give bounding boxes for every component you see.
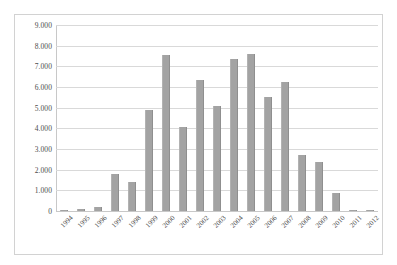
gridline (56, 25, 378, 26)
x-axis-tick-label: 2007 (280, 214, 296, 230)
bar (298, 155, 306, 211)
x-axis-tick-label: 1997 (110, 214, 126, 230)
y-axis-tick-label: 9.000 (35, 21, 52, 30)
bar (332, 193, 340, 211)
x-axis-tick-label: 2010 (331, 214, 347, 230)
y-axis-tick-label: 0 (48, 207, 52, 216)
x-axis-tick-label: 2003 (212, 214, 228, 230)
bar (213, 106, 221, 211)
x-axis-tick-label: 1998 (127, 214, 143, 230)
y-axis-tick-labels: 01.0002.0003.0004.0005.0006.0007.0008.00… (15, 25, 52, 211)
x-axis-tick-labels: 1994199519961997199819992000200120022003… (56, 212, 378, 256)
gridline (56, 66, 378, 67)
bar (230, 59, 238, 211)
bar (77, 209, 85, 211)
x-axis-tick-label: 1994 (60, 214, 76, 230)
bar (349, 210, 357, 211)
y-axis-tick-label: 7.000 (35, 62, 52, 71)
bar (94, 207, 102, 211)
gridline (56, 87, 378, 88)
bar (145, 110, 153, 211)
bar (111, 174, 119, 211)
bar (196, 80, 204, 211)
bar (264, 97, 272, 211)
x-axis-tick-label: 2001 (178, 214, 194, 230)
x-axis-tick-label: 2008 (297, 214, 313, 230)
x-axis-tick-label: 1996 (93, 214, 109, 230)
y-axis-tick-label: 2.000 (35, 165, 52, 174)
bar (247, 54, 255, 211)
bar (179, 127, 187, 211)
chart-frame: 01.0002.0003.0004.0005.0006.0007.0008.00… (14, 14, 383, 255)
x-axis-tick-label: 2011 (348, 214, 363, 229)
plot-area (56, 25, 378, 211)
y-axis-tick-label: 4.000 (35, 124, 52, 133)
bar (366, 210, 374, 211)
x-axis-tick-label: 2012 (365, 214, 381, 230)
x-axis-tick-label: 2005 (246, 214, 262, 230)
x-axis-tick-label: 1995 (77, 214, 93, 230)
x-axis-tick-label: 2006 (263, 214, 279, 230)
bar (315, 162, 323, 211)
gridline (56, 46, 378, 47)
y-axis-tick-label: 1.000 (35, 186, 52, 195)
x-axis-tick-label: 1999 (144, 214, 160, 230)
x-axis-tick-label: 2004 (229, 214, 245, 230)
x-axis-tick-label: 2002 (195, 214, 211, 230)
bar (128, 182, 136, 211)
y-axis-tick-label: 5.000 (35, 103, 52, 112)
bar (162, 55, 170, 211)
bar (281, 82, 289, 211)
y-axis-tick-label: 6.000 (35, 83, 52, 92)
bar (60, 210, 68, 211)
y-axis-tick-label: 8.000 (35, 41, 52, 50)
x-axis-tick-label: 2009 (314, 214, 330, 230)
y-axis-tick-label: 3.000 (35, 145, 52, 154)
x-axis-tick-label: 2000 (161, 214, 177, 230)
